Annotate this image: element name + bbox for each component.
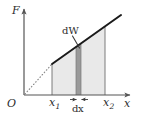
dw-annotation-label: d W xyxy=(62,25,80,36)
curve-dotted-extension xyxy=(25,64,52,94)
y-axis-label: F xyxy=(11,4,20,17)
x1-subscript: 1 xyxy=(56,102,61,111)
x1-tick-label: x 1 xyxy=(49,96,60,111)
force-displacement-figure: F x O x 1 x 2 d W d x xyxy=(0,0,142,118)
x2-tick-label: x 2 xyxy=(103,96,115,111)
origin-label: O xyxy=(7,97,16,110)
figure-canvas: F x O x 1 x 2 d W d x xyxy=(0,0,142,118)
x-axis-label: x xyxy=(124,97,131,110)
dx-strip-shaded xyxy=(76,43,81,95)
dw-variable: W xyxy=(69,25,80,36)
dx-annotation-label: d x xyxy=(72,103,84,114)
x2-subscript: 2 xyxy=(109,102,115,111)
dx-variable: x xyxy=(78,103,84,114)
